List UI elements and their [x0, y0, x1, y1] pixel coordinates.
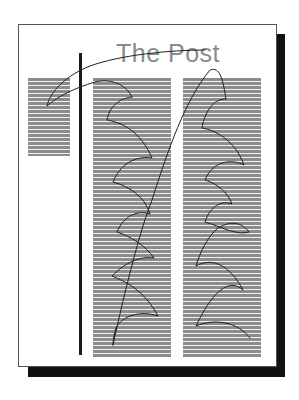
path-headline-sweep — [47, 50, 205, 106]
reading-path — [0, 0, 299, 400]
path-middle-column-zigzag — [107, 97, 158, 345]
path-right-column-zigzag — [196, 99, 250, 338]
